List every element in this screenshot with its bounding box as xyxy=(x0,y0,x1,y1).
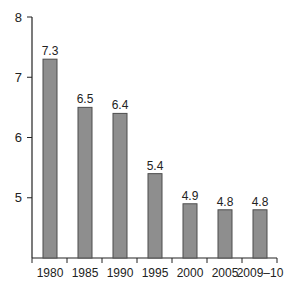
y-axis: 5678 xyxy=(15,10,32,259)
bar xyxy=(218,210,232,258)
bar-group: 4.92000 xyxy=(177,189,204,280)
bar xyxy=(183,204,197,258)
x-category-label: 2000 xyxy=(177,266,204,280)
bar-value-label: 6.5 xyxy=(77,92,94,106)
y-tick-label: 6 xyxy=(15,130,22,145)
bar-value-label: 4.8 xyxy=(217,195,234,209)
x-category-label: 1985 xyxy=(72,266,99,280)
bars: 7.319806.519856.419905.419954.920004.820… xyxy=(37,44,284,280)
bar xyxy=(43,59,57,258)
x-category-label: 2009–10 xyxy=(237,266,284,280)
bar-value-label: 6.4 xyxy=(112,98,129,112)
x-category-label: 2005 xyxy=(212,266,239,280)
y-tick-label: 7 xyxy=(15,70,22,85)
x-category-label: 1990 xyxy=(107,266,134,280)
bar-value-label: 4.8 xyxy=(252,195,269,209)
bar xyxy=(78,107,92,258)
bar-value-label: 7.3 xyxy=(42,44,59,58)
bar-chart: 5678 7.319806.519856.419905.419954.92000… xyxy=(0,0,292,292)
bar-group: 5.41995 xyxy=(142,159,169,280)
bar-value-label: 5.4 xyxy=(147,159,164,173)
bar-group: 6.41990 xyxy=(107,98,134,280)
bar xyxy=(253,210,267,258)
x-category-label: 1980 xyxy=(37,266,64,280)
bar-group: 7.31980 xyxy=(37,44,64,280)
bar xyxy=(113,113,127,258)
bar-value-label: 4.9 xyxy=(182,189,199,203)
bar-group: 4.82009–10 xyxy=(237,195,284,280)
bar-group: 4.82005 xyxy=(212,195,239,280)
y-tick-label: 5 xyxy=(15,190,22,205)
bar xyxy=(148,174,162,258)
x-axis xyxy=(32,258,277,263)
x-category-label: 1995 xyxy=(142,266,169,280)
y-tick-label: 8 xyxy=(15,10,22,25)
bar-group: 6.51985 xyxy=(72,92,99,280)
